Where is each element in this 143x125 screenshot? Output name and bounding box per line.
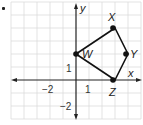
point-w bbox=[73, 51, 79, 57]
y-axis-label: y bbox=[79, 2, 87, 14]
coordinate-plane: x y W X Y Z −2 1 1 −2 bbox=[0, 0, 143, 125]
label-x: X bbox=[107, 11, 116, 23]
x-tick-neg2: −2 bbox=[42, 84, 54, 95]
point-z bbox=[110, 77, 116, 83]
label-z: Z bbox=[108, 86, 117, 98]
x-axis-label: x bbox=[127, 67, 134, 79]
y-tick-1: 1 bbox=[66, 63, 72, 74]
label-y: Y bbox=[130, 48, 138, 60]
y-axis bbox=[74, 3, 78, 120]
y-tick-neg2: −2 bbox=[60, 101, 72, 112]
point-x bbox=[110, 25, 116, 31]
x-tick-1: 1 bbox=[85, 84, 91, 95]
label-w: W bbox=[82, 48, 94, 60]
point-y bbox=[123, 51, 129, 57]
